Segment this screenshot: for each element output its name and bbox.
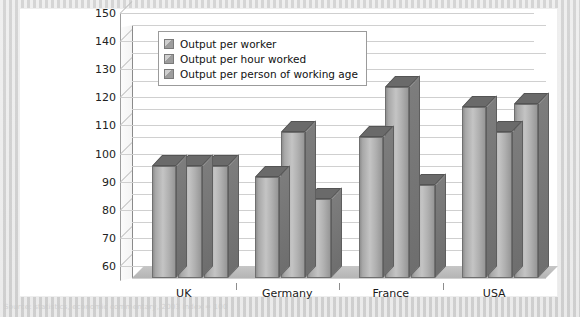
x-axis-tick xyxy=(443,283,444,290)
bar-side-face xyxy=(228,154,239,278)
bar-side-face xyxy=(486,95,497,278)
x-axis-tick xyxy=(236,283,237,290)
bar-side-face xyxy=(176,154,187,278)
legend-item: Output per worker xyxy=(164,36,358,51)
legend-swatch-icon xyxy=(164,54,174,64)
chart-canvas: 15014013012011010090807060 UKGermanyFran… xyxy=(20,9,557,296)
bar-side-face xyxy=(331,188,342,278)
legend-item: Output per person of working age xyxy=(164,66,358,81)
gridline xyxy=(132,278,546,279)
bar xyxy=(462,107,486,278)
y-axis-back-line xyxy=(120,13,121,266)
y-axis-tick-label: 110 xyxy=(95,119,116,132)
x-axis-tick-label: France xyxy=(372,287,409,300)
chart-legend: Output per worker Output per hour worked… xyxy=(158,31,367,86)
x-axis-tick-label: Germany xyxy=(262,287,313,300)
bar-side-face xyxy=(279,165,290,278)
y-axis-tick-label: 150 xyxy=(95,7,116,20)
x-axis-tick-label: USA xyxy=(483,287,506,300)
y-axis-tick-label: 140 xyxy=(95,35,116,48)
plot-area: 15014013012011010090807060 UKGermanyFran… xyxy=(132,25,546,278)
bar-front-face xyxy=(462,107,486,278)
y-axis-tick-label: 80 xyxy=(102,203,116,216)
legend-item: Output per hour worked xyxy=(164,51,358,66)
x-axis-tick xyxy=(339,283,340,290)
y-axis-tick-label: 100 xyxy=(95,147,116,160)
bar-side-face xyxy=(409,75,420,278)
bar-front-face xyxy=(255,177,279,278)
legend-item-label: Output per hour worked xyxy=(180,53,306,65)
y-axis-tick-label: 60 xyxy=(102,260,116,273)
y-axis-tick-label: 120 xyxy=(95,91,116,104)
legend-item-label: Output per worker xyxy=(180,38,276,50)
x-axis-tick-label: UK xyxy=(176,287,191,300)
bar xyxy=(359,137,383,278)
bar xyxy=(255,177,279,278)
bar-side-face xyxy=(538,92,549,278)
y-axis-tick-label: 70 xyxy=(102,231,116,244)
bar-front-face xyxy=(359,137,383,278)
legend-swatch-icon xyxy=(164,69,174,79)
bar-side-face xyxy=(305,120,316,278)
bar-front-face xyxy=(152,166,176,278)
legend-swatch-icon xyxy=(164,39,174,49)
y-axis-tick-label: 130 xyxy=(95,63,116,76)
bar-side-face xyxy=(202,154,213,278)
legend-item-label: Output per person of working age xyxy=(180,68,358,80)
caption-watermark: Source: statistics, economic commentary,… xyxy=(4,303,334,315)
bar-side-face xyxy=(512,120,523,278)
y-axis-tick-label: 90 xyxy=(102,175,116,188)
bar xyxy=(152,166,176,278)
gridline xyxy=(120,13,534,14)
bar-side-face xyxy=(383,126,394,278)
bar-side-face xyxy=(435,173,446,278)
